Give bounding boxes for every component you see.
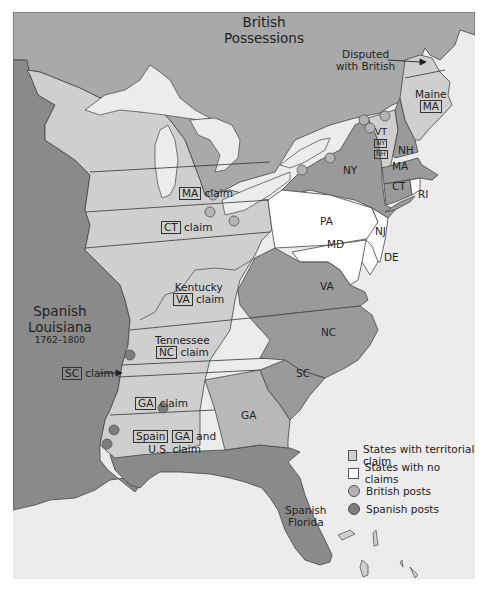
british-post-marker [297,165,307,175]
british-possessions-label: British Possessions [224,15,304,46]
spanish-post-dot-icon [348,503,360,515]
sc-label: SC [296,367,310,379]
spanish-post-marker [125,350,135,360]
british-post-marker [325,153,335,163]
british-post-marker [205,207,215,217]
british-post-marker [380,111,390,121]
nc-label: NC [321,326,336,338]
ct-label: CT [392,180,406,192]
ma-label: MA [392,160,408,172]
md-label: MD [327,238,344,250]
nh-label: NH [398,144,414,156]
map-frame: British Possessions Disputed with Britis… [13,12,475,579]
spain-ga-us-claim-label: Spain GA and U.S. claim [133,430,216,455]
ma-claim-label: MA claim [179,187,233,200]
spanish-post-marker [109,425,119,435]
spanish-louisiana-label: Spanish Louisiana 1762–1800 [28,304,92,345]
legend-item-no-claims: States with no claims [348,464,475,482]
tennessee-claim-label: Tennessee NC claim [155,334,210,359]
territorial-claim-swatch-icon [348,450,357,461]
british-post-marker [229,216,239,226]
spanish-florida-label: Spanish Florida [285,504,326,528]
sc-claim-label: SC claim [62,367,114,380]
map-legend: States with territorial claim States wit… [348,446,475,518]
ny-label: NY [343,164,357,176]
va-label: VA [320,280,334,292]
no-claims-swatch-icon [348,468,359,479]
de-label: DE [384,251,399,263]
pa-label: PA [320,215,333,227]
ga-label: GA [241,409,256,421]
vt-label: VT NY NH [374,127,388,159]
ct-claim-label: CT claim [161,221,212,234]
nj-label: NJ [375,225,386,237]
kentucky-claim-label: Kentucky VA claim [173,281,224,306]
maine-label: Maine MA [415,88,447,113]
ga-claim-label: GA claim [135,397,188,410]
disputed-with-british-label: Disputed with British [336,48,395,72]
spanish-post-marker [102,439,112,449]
legend-item-spanish-posts: Spanish posts [348,500,475,518]
british-post-dot-icon [348,485,360,497]
ri-label: RI [418,188,428,200]
